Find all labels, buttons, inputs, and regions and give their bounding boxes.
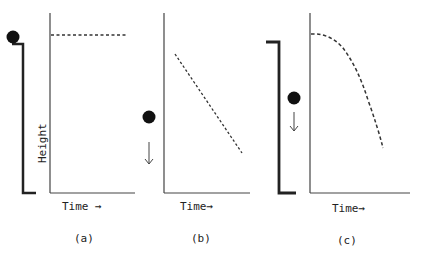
falling-ball-diagram: Height Time → (a) Time→ (b)	[0, 0, 424, 256]
height-curve-c	[311, 34, 383, 148]
axes-a	[50, 13, 135, 193]
ball-icon	[7, 31, 20, 44]
down-arrow-icon	[145, 142, 153, 164]
ball-icon	[143, 111, 156, 124]
down-arrow-icon	[290, 112, 298, 131]
caption-c: (c)	[337, 234, 357, 247]
axes-c	[310, 13, 410, 193]
height-curve-b	[175, 54, 242, 153]
caption-b: (b)	[191, 232, 211, 245]
panel-b: Time→ (b)	[143, 13, 251, 245]
ball-icon	[288, 92, 301, 105]
x-axis-label-c: Time→	[332, 202, 365, 215]
tower-a	[12, 44, 36, 193]
x-axis-label-a: Time →	[62, 200, 102, 213]
panel-a: Height Time → (a)	[7, 13, 136, 245]
x-axis-label-b: Time→	[180, 200, 213, 213]
tower-c	[266, 42, 296, 193]
y-axis-label: Height	[36, 123, 49, 163]
panel-c: Time→ (c)	[266, 13, 410, 247]
axes-b	[164, 13, 250, 193]
caption-a: (a)	[74, 232, 94, 245]
